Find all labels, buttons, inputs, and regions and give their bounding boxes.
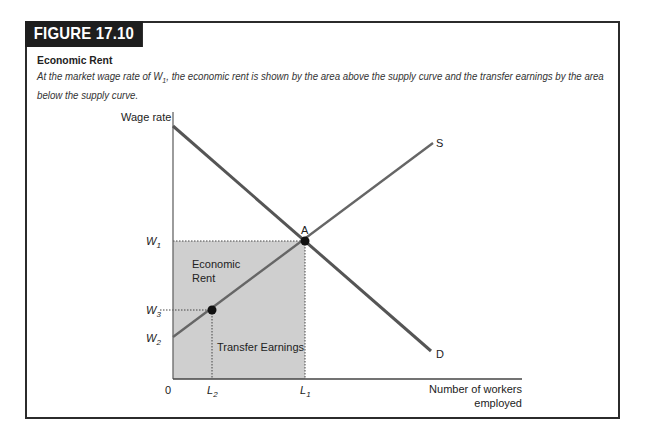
point-a bbox=[301, 237, 310, 246]
economic-rent-label-1: Economic bbox=[192, 258, 241, 270]
l1-label: L1 bbox=[300, 384, 311, 399]
origin-label: 0 bbox=[165, 384, 171, 396]
point-a-label: A bbox=[301, 224, 309, 236]
w2-label: W2 bbox=[146, 332, 161, 347]
w3-label: W3 bbox=[146, 304, 161, 319]
x-axis-label-line1: Number of workers bbox=[429, 383, 522, 395]
supply-label: S bbox=[436, 137, 443, 149]
x-axis-label-line2: employed bbox=[474, 397, 522, 409]
y-axis-label: Wage rate bbox=[121, 111, 171, 123]
l2-label: L2 bbox=[207, 384, 218, 399]
point-w3-l2 bbox=[208, 306, 217, 315]
demand-label: D bbox=[436, 348, 444, 360]
transfer-earnings-label: Transfer Earnings bbox=[217, 341, 305, 353]
economic-rent-label-2: Rent bbox=[192, 272, 215, 284]
economic-rent-chart: Wage rate S D A W1 W3 W2 0 L2 L1 Number … bbox=[0, 0, 645, 443]
w1-label: W1 bbox=[146, 235, 161, 250]
